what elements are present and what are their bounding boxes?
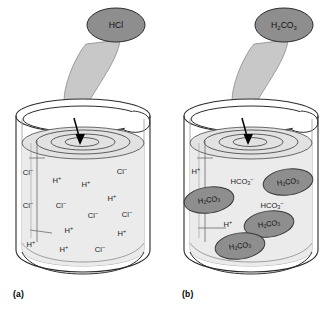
panel-b-weak-acid: H2CO3 H+HCO3−HCO3−H+ H2CO3H2CO3H2CO3H2CO… [168,0,336,311]
ion-label: Cl− [23,169,33,177]
ion-label: Cl− [23,202,33,210]
acid-dissociation-figure: HCl Cl−H+H+Cl−H+Cl−Cl−Cl−Cl−H+H+H+H+Cl− … [0,0,336,311]
ion-label: H+ [224,221,233,229]
liquid-body-a [22,143,144,266]
panel-a-strong-acid: HCl Cl−H+H+Cl−H+Cl−Cl−Cl−Cl−H+H+H+H+Cl− … [0,0,168,311]
ion-label: Cl− [95,246,105,254]
substance-bubble-label-a: HCl [109,21,123,30]
ion-label: HCO3− [260,202,283,210]
ion-label: H+ [108,195,117,203]
ion-label: Cl− [122,211,132,219]
ion-label: H+ [118,230,127,238]
ion-label: H+ [60,246,69,254]
panel-caption-a: (a) [13,289,24,299]
beaker-b-graphic [168,0,336,311]
ion-label: HCO3− [230,178,253,186]
ion-label: H+ [53,177,62,185]
ion-label: H+ [27,241,36,249]
panel-caption-b: (b) [182,289,193,299]
substance-bubble-label-b: H2CO3 [271,21,297,30]
ion-label: Cl− [117,168,127,176]
ion-label: H+ [192,168,201,176]
ion-label: Cl− [88,212,98,220]
ion-label: Cl− [56,202,66,210]
ion-label: H+ [82,181,91,189]
ion-label: H+ [65,227,74,235]
beaker-a-graphic [0,0,168,311]
